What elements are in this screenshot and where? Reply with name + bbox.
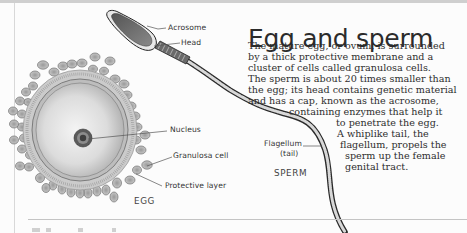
sperm-head — [107, 10, 157, 50]
label-acrosome: Acrosome — [168, 23, 206, 32]
label-nucleus: Nucleus — [170, 125, 201, 134]
sperm-caption: SPERM — [274, 168, 307, 178]
label-head: Head — [181, 38, 201, 47]
body-line: cluster of cells called granulosa cells. — [248, 62, 431, 73]
label-flagellum-note: (tail) — [280, 149, 298, 158]
body-line: to penetrate the egg. — [336, 117, 439, 128]
body-line: containing enzymes that help it — [289, 106, 442, 117]
label-flagellum: Flagellum — [264, 139, 302, 148]
body-line: the egg; its head contains genetic mater… — [248, 84, 457, 95]
next-section-heading-fragment — [30, 228, 150, 233]
egg-caption: EGG — [134, 196, 155, 206]
body-line: by a thick protective membrane and a — [248, 51, 433, 62]
egg-nucleus — [74, 129, 92, 147]
body-line: The sperm is about 20 times smaller than — [248, 73, 451, 84]
body-line: and has a cap, known as the acrosome, — [248, 95, 439, 106]
bottom-divider — [28, 219, 467, 220]
body-line: A whiplike tail, the — [337, 128, 429, 139]
label-protective-layer: Protective layer — [165, 181, 226, 190]
label-granulosa-cell: Granulosa cell — [173, 151, 229, 160]
body-line: genital tract. — [345, 161, 408, 172]
body-line: The mature egg, or ovum, is surrounded — [248, 40, 445, 51]
body-line: sperm up the female — [345, 150, 445, 161]
textbook-page: Acrosome Head Flagellum (tail) SPERM Nuc… — [0, 0, 467, 233]
body-line: flagellum, propels the — [340, 139, 447, 150]
